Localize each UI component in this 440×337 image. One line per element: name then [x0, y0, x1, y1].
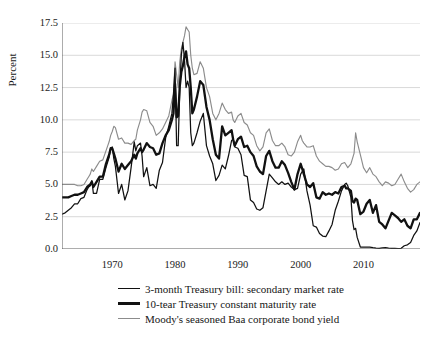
- y-axis-tick: 5.0: [24, 179, 58, 190]
- chart-legend: 3-month Treasury bill: secondary market …: [118, 281, 418, 326]
- swatch-line: [118, 302, 140, 305]
- legend-item: 10-tear Treasury constant maturity rate: [118, 296, 418, 311]
- line-swatch-gray: [118, 313, 140, 325]
- line-swatch-thick-black: [118, 298, 140, 310]
- y-axis-label: Percent: [6, 35, 18, 105]
- swatch-line: [118, 288, 140, 290]
- y-axis-tick: 12.5: [24, 83, 58, 94]
- y-axis-tick: 10.0: [24, 115, 58, 126]
- y-axis-tick: 2.5: [24, 212, 58, 223]
- x-axis-tick: 1990: [227, 259, 248, 270]
- chart-svg: [62, 23, 420, 249]
- legend-item: Moody's seasoned Baa corporate bond yiel…: [118, 311, 418, 326]
- y-axis-tick: 17.5: [24, 18, 58, 29]
- series-lines: [62, 27, 420, 249]
- swatch-line: [118, 318, 140, 319]
- series-line: [62, 42, 420, 248]
- legend-label: 3-month Treasury bill: secondary market …: [145, 283, 344, 295]
- line-swatch-thin-black: [118, 283, 140, 295]
- chart-figure: Percent 0.02.55.07.510.012.515.017.5 197…: [0, 0, 440, 337]
- x-axis-tick: 1970: [102, 259, 123, 270]
- y-axis-tick: 7.5: [24, 147, 58, 158]
- legend-label: 10-tear Treasury constant maturity rate: [145, 298, 316, 310]
- plot-area: [62, 23, 420, 249]
- y-axis-tick: 15.0: [24, 50, 58, 61]
- legend-label: Moody's seasoned Baa corporate bond yiel…: [145, 313, 339, 325]
- x-axis-tick: 1980: [165, 259, 186, 270]
- legend-item: 3-month Treasury bill: secondary market …: [118, 281, 418, 296]
- x-axis-tick-labels: 19701980199020002010: [0, 253, 440, 273]
- series-line: [62, 51, 420, 228]
- x-axis-tick: 2010: [353, 259, 374, 270]
- y-axis-tick-labels: 0.02.55.07.510.012.515.017.5: [22, 0, 58, 337]
- x-axis-tick: 2000: [290, 259, 311, 270]
